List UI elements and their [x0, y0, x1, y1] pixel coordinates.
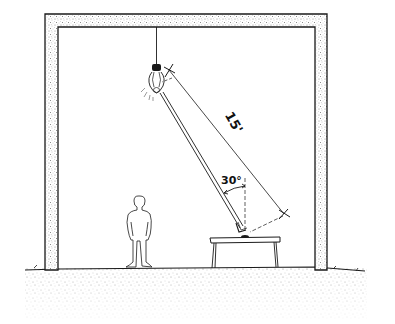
- table: [210, 237, 280, 268]
- ground: [25, 265, 367, 320]
- human-figure: [126, 196, 152, 267]
- distance-label: 15': [222, 109, 246, 136]
- angle-label: 30°: [221, 174, 242, 187]
- section-diagram: 15' 30°: [0, 0, 395, 324]
- light-glow-strokes: [141, 88, 153, 101]
- hanging-light-bulb: [149, 64, 164, 93]
- wall-frame: [45, 14, 327, 270]
- distance-dimension-line: [162, 64, 290, 232]
